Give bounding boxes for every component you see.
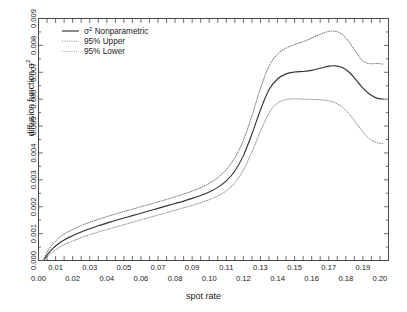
x-tick-label-odd: 0.11 xyxy=(219,263,233,272)
diffusion-function-line-chart: 0.0000.0010.0020.0030.0040.0050.0060.007… xyxy=(0,0,407,312)
x-tick-label-even: 0.02 xyxy=(65,274,80,283)
x-tick-label-even: 0.18 xyxy=(338,274,353,283)
x-tick-label-even: 0.00 xyxy=(31,274,46,283)
chart-figure: 0.0000.0010.0020.0030.0040.0050.0060.007… xyxy=(0,0,407,312)
x-tick-label-odd: 0.19 xyxy=(355,263,370,272)
y-axis-title-text: diffusion function xyxy=(26,68,36,136)
legend-label: 95% Lower xyxy=(84,47,125,56)
y-tick-label: 0.001 xyxy=(29,224,38,243)
x-axis-tick-labels-odd: 0.010.030.050.070.090.110.130.150.170.19 xyxy=(48,263,370,272)
x-tick-label-even: 0.12 xyxy=(236,274,251,283)
x-tick-label-odd: 0.07 xyxy=(151,263,166,272)
y-tick-label: 0.000 xyxy=(29,251,38,270)
y-tick-label: 0.002 xyxy=(29,197,38,216)
x-tick-label-odd: 0.03 xyxy=(82,263,97,272)
x-tick-label-even: 0.14 xyxy=(270,274,285,283)
x-tick-label-odd: 0.01 xyxy=(48,263,63,272)
x-axis-ticks-top xyxy=(39,19,380,24)
x-axis-ticks-bottom xyxy=(39,256,380,261)
x-tick-label-even: 0.16 xyxy=(304,274,319,283)
x-tick-label-even: 0.06 xyxy=(134,274,149,283)
legend-label: 95% Upper xyxy=(84,37,125,46)
x-tick-label-even: 0.20 xyxy=(373,274,388,283)
x-tick-label-odd: 0.15 xyxy=(287,263,302,272)
y-axis-title: diffusion function σ2 xyxy=(24,8,36,188)
x-tick-label-odd: 0.17 xyxy=(321,263,336,272)
x-tick-label-odd: 0.05 xyxy=(116,263,131,272)
x-axis-tick-labels-even: 0.000.020.040.060.080.100.120.140.160.18… xyxy=(31,274,387,283)
x-tick-label-odd: 0.13 xyxy=(253,263,268,272)
legend-label: σ2 Nonparametric xyxy=(84,26,148,36)
x-tick-label-even: 0.08 xyxy=(168,274,183,283)
x-tick-label-even: 0.10 xyxy=(202,274,217,283)
y-axis-title-exponent: 2 xyxy=(24,60,31,64)
x-axis-title: spot rate xyxy=(0,291,407,301)
y-axis-title-symbol: σ xyxy=(26,63,36,68)
x-tick-label-odd: 0.09 xyxy=(185,263,200,272)
x-tick-label-even: 0.04 xyxy=(99,274,114,283)
